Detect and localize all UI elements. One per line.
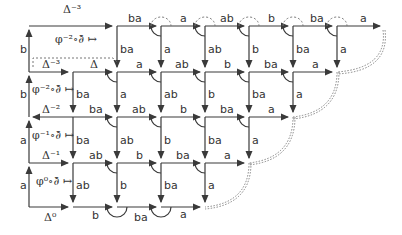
cell-label-phi-neg2: φ⁻²∘∂̄ ↦ [55, 34, 97, 45]
edge-label: ba [76, 135, 90, 146]
edge-label: b [120, 180, 127, 191]
edge-label: b [92, 210, 99, 221]
cell-label-phi-neg1: φ⁻¹∘∂̄ ↦ [32, 130, 74, 141]
edge-label: a [120, 89, 127, 100]
edge-label: ba [120, 44, 134, 55]
edge-label: ab [164, 89, 178, 100]
edge-label-delta-neg3-top: Δ⁻³ [63, 4, 81, 15]
edge-label: a [296, 89, 303, 100]
edge-label: ba [310, 13, 324, 24]
edge-label: ab [208, 44, 222, 55]
edge-label: ab [175, 59, 189, 70]
edge-label-b-row1: b [20, 89, 27, 100]
edge-label: ba [264, 59, 278, 70]
edge-label-a-row3: a [20, 180, 27, 191]
edge-label: ab [76, 180, 90, 191]
edge-label: ba [76, 89, 90, 100]
edge-label: b [208, 89, 215, 100]
edge-label: ab [120, 135, 134, 146]
edge-label: b [180, 104, 187, 115]
edge-label: b [164, 135, 171, 146]
edge-label-a-row2: a [20, 135, 27, 146]
edge-label: ba [208, 135, 222, 146]
edge-label: a [340, 44, 347, 55]
edge-label: a [268, 104, 275, 115]
edge-label: a [312, 59, 319, 70]
edge-label: ba [134, 212, 148, 223]
edge-label: ba [89, 104, 103, 115]
edge-label: a [164, 44, 171, 55]
edge-label: a [224, 150, 231, 161]
edge-label: ba [296, 44, 310, 55]
edge-label: a [208, 180, 215, 191]
diagram-canvas: Δ⁻³ b φ⁻²∘∂̄ ↦ Δ⁻³ Δ b φ⁻²∘∂̄ ↦ Δ⁻² a φ⁻… [0, 0, 402, 235]
edge-label: a [360, 13, 367, 24]
edge-label: ab [132, 104, 146, 115]
edge-label: a [180, 209, 187, 220]
edge-label: b [268, 13, 275, 24]
edge-label: ba [176, 150, 190, 161]
edge-label: b [224, 59, 231, 70]
edge-label: ba [220, 104, 234, 115]
edge-label: a [180, 13, 187, 24]
edge-label: ab [89, 150, 103, 161]
edge-label-delta-neg1: Δ⁻¹ [42, 150, 60, 161]
edge-label-delta-neg2: Δ⁻² [42, 104, 60, 115]
edge-label-delta-neg3: Δ⁻³ [42, 59, 60, 70]
edge-label: b [252, 44, 259, 55]
cell-label-phi-neg2-b: φ⁻²∘∂̄ ↦ [32, 84, 74, 95]
edge-label: b [136, 150, 143, 161]
cell-label-phi-0: φ⁰∘∂̄ ↦ [36, 176, 72, 187]
edge-label: a [252, 135, 259, 146]
edge-label-delta: Δ [90, 59, 98, 70]
edge-label-delta-0: Δ⁰ [44, 212, 56, 223]
edge-label: ba [164, 180, 178, 191]
edge-label: ba [128, 13, 142, 24]
edge-label: a [136, 59, 143, 70]
edge-label-b-row0: b [20, 44, 27, 55]
edge-label: ba [252, 89, 266, 100]
edge-label: ab [220, 13, 234, 24]
